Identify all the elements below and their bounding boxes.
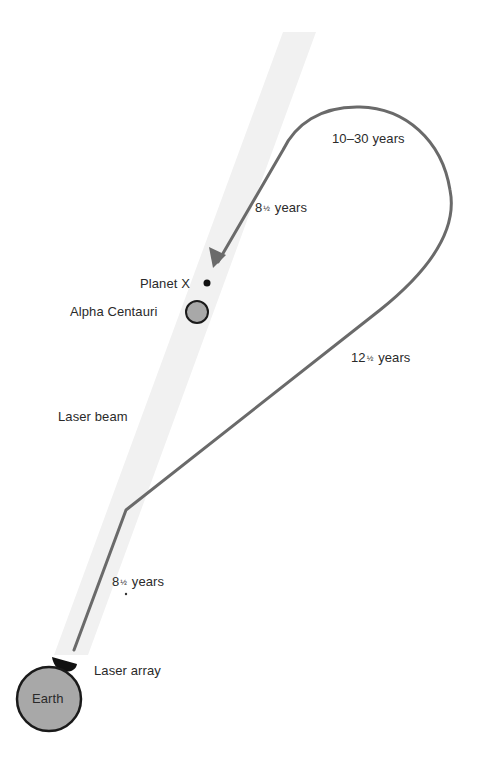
alpha-centauri-star xyxy=(186,301,208,323)
diagram-canvas: 10–30 years 8½ years Planet X Alpha Cent… xyxy=(0,0,485,765)
label-outbound-long-duration: 12½ years xyxy=(351,350,410,365)
label-outbound-short-duration: 8½ years xyxy=(112,574,164,589)
label-earth: Earth xyxy=(32,691,64,706)
label-laser-beam: Laser beam xyxy=(58,409,128,424)
laser-beam xyxy=(54,32,316,655)
label-alpha-centauri: Alpha Centauri xyxy=(70,304,157,319)
label-laser-array: Laser array xyxy=(94,663,161,678)
probe-speck xyxy=(125,593,127,595)
label-planet-x: Planet X xyxy=(140,276,190,291)
label-loop-duration: 10–30 years xyxy=(332,131,405,146)
trajectory-path xyxy=(74,107,451,650)
label-approach-duration: 8½ years xyxy=(255,200,307,215)
planet-x-dot xyxy=(204,280,211,287)
